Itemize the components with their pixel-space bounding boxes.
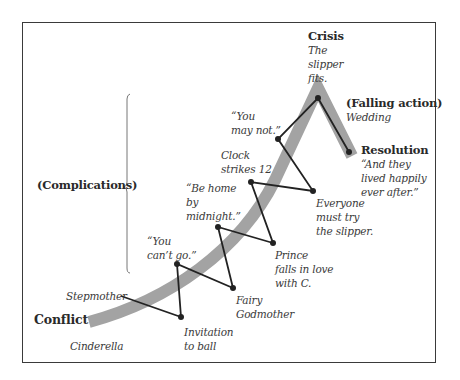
antagonist-label: Stepmother (66, 289, 127, 303)
falling-action-text: Wedding (346, 110, 391, 124)
event-label-may-not: “You may not.” (231, 109, 281, 137)
event-label-cant-go: “You can’t go.” (147, 234, 196, 262)
event-label-prince: Prince falls in love with C. (275, 248, 333, 290)
resolution-title: Resolution (361, 143, 428, 157)
event-label-everyone: Everyone must try the slipper. (316, 196, 373, 238)
event-label-clock: Clock strikes 12 (221, 148, 272, 176)
event-label-be-home: “Be home by midnight.” (186, 181, 241, 223)
event-dot-invitation (178, 314, 184, 320)
event-label-fairy-godmother: Fairy Godmother (236, 293, 294, 321)
event-dot-everyone (310, 188, 316, 194)
event-dot-fairy-godmother (230, 285, 236, 291)
conflict-title: Conflict (34, 313, 88, 327)
falling-action-title: (Falling action) (346, 96, 442, 110)
crisis-title: Crisis (308, 29, 344, 43)
crisis-text: The slipper fits. (308, 43, 343, 85)
event-dot-clock (248, 179, 254, 185)
protagonist-label: Cinderella (70, 339, 123, 353)
resolution-text: “And they lived happily ever after.” (361, 157, 426, 199)
event-dot-prince (270, 240, 276, 246)
event-label-invitation: Invitation to ball (184, 325, 233, 353)
complications-title: (Complications) (37, 178, 137, 192)
event-dot-crisis (315, 95, 321, 101)
event-dot-wedding (346, 149, 352, 155)
event-dot-be-home (215, 224, 221, 230)
